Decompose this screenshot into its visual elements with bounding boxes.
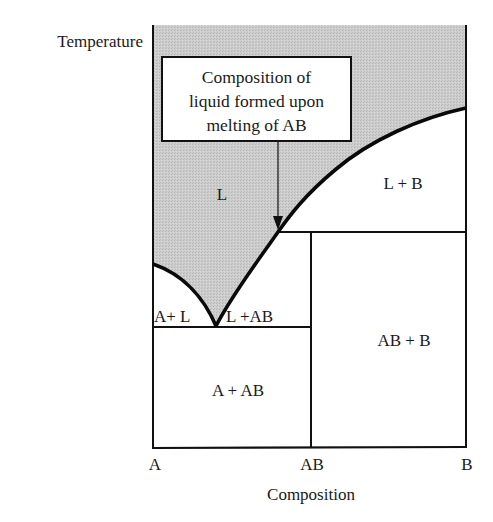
region-liquid-label: L [217, 185, 227, 204]
composition-axis [152, 447, 467, 448]
x-tick-b: B [461, 455, 472, 474]
x-tick-a: A [149, 455, 162, 474]
y-axis-label: Temperature [57, 32, 143, 51]
region-liquid-plus-b-label: L + B [383, 174, 422, 193]
region-liquid-plus-ab-label: L +AB [226, 307, 273, 326]
region-a-plus-liquid-label: A+ L [154, 307, 191, 326]
x-axis-label: Composition [267, 485, 355, 504]
region-ab-plus-b-label: AB + B [377, 331, 430, 350]
annotation-line-1: Composition of [202, 67, 312, 87]
phase-diagram: Composition of liquid formed upon meltin… [0, 0, 493, 522]
region-a-plus-ab-label: A + AB [212, 381, 264, 400]
x-tick-ab: AB [300, 455, 324, 474]
annotation-line-2: liquid formed upon [189, 91, 324, 111]
annotation-line-3: melting of AB [206, 115, 306, 135]
